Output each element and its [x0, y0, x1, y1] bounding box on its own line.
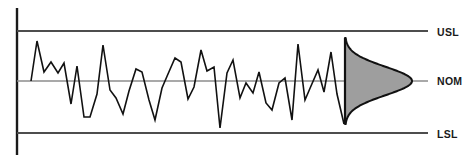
nom-label: NOM [437, 76, 462, 87]
lsl-label: LSL [437, 129, 458, 140]
usl-label: USL [437, 27, 459, 38]
process-capability-chart: USL NOM LSL [0, 0, 472, 162]
distribution-curve [345, 38, 412, 124]
chart-canvas [0, 0, 472, 162]
process-data-line [31, 41, 344, 128]
